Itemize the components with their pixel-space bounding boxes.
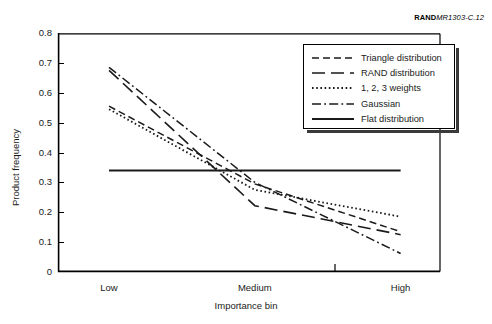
- y-tick-label: 0.1: [26, 237, 52, 247]
- x-axis-title: Importance bin: [0, 300, 492, 311]
- y-tick-label: 0.8: [26, 28, 52, 38]
- y-tick-mark: [58, 123, 64, 124]
- legend-item-label: Gaussian: [361, 99, 400, 109]
- y-tick-label: 0.6: [26, 88, 52, 98]
- y-tick-mark: [58, 182, 64, 183]
- legend-line-sample: [311, 52, 355, 64]
- y-tick-label: 0.2: [26, 207, 52, 217]
- source-tag: RANDMR1303-C.12: [414, 13, 484, 22]
- legend-item: Gaussian: [304, 96, 454, 111]
- source-tag-number: MR1303-C.12: [436, 13, 484, 22]
- legend-box: Triangle distributionRAND distribution1,…: [303, 44, 455, 129]
- y-tick-label: 0.7: [26, 58, 52, 68]
- clipped-caption-sliver: [8, 0, 238, 4]
- legend-item-label: 1, 2, 3 weights: [361, 83, 421, 93]
- legend-line-sample: [311, 82, 355, 94]
- legend-line-sample: [311, 113, 355, 125]
- source-tag-brand: RAND: [414, 13, 436, 22]
- legend-item: 1, 2, 3 weights: [304, 81, 454, 96]
- x-tick-label: High: [361, 282, 441, 293]
- legend-item-label: Triangle distribution: [361, 53, 442, 63]
- y-tick-label: 0.4: [26, 148, 52, 158]
- legend-item: Triangle distribution: [304, 50, 454, 65]
- legend-line-sample: [311, 67, 355, 79]
- y-tick-label: 0: [26, 267, 52, 277]
- y-tick-mark: [58, 63, 64, 64]
- x-tick-label: Medium: [215, 282, 295, 293]
- y-tick-label: 0.5: [26, 118, 52, 128]
- y-tick-mark: [58, 212, 64, 213]
- legend-item-label: RAND distribution: [361, 68, 435, 78]
- legend-item: RAND distribution: [304, 65, 454, 80]
- legend-line-sample: [311, 98, 355, 110]
- y-tick-mark: [58, 242, 64, 243]
- y-axis-title: Product frequency: [10, 129, 21, 206]
- legend-item-label: Flat distribution: [361, 114, 424, 124]
- y-tick-mark: [58, 93, 64, 94]
- figure-chart: RANDMR1303-C.12 Product frequency 0.80.7…: [0, 0, 492, 324]
- x-tick-label: Low: [69, 282, 149, 293]
- y-tick-mark: [58, 153, 64, 154]
- y-tick-label: 0.3: [26, 177, 52, 187]
- legend-item: Flat distribution: [304, 112, 454, 127]
